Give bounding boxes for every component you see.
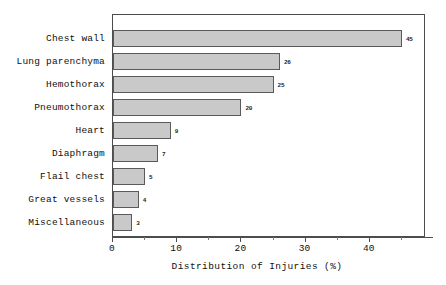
x-tick-label: 0 (109, 243, 115, 254)
bar-value-label: 26 (284, 58, 291, 65)
category-label: Chest wall (46, 33, 105, 44)
bar (113, 76, 274, 93)
category-label: Flail chest (40, 171, 105, 182)
category-label: Diaphragm (52, 148, 105, 159)
bar (113, 99, 241, 116)
bar-chart-figure: 4526252097543 Chest wallLung parenchymaH… (0, 0, 446, 285)
bar-row: 4 (113, 191, 424, 208)
x-tick-label: 40 (363, 243, 375, 254)
x-tick-label: 10 (170, 243, 182, 254)
bar-value-label: 20 (245, 104, 252, 111)
x-tick-minor (273, 237, 274, 240)
bar-value-label: 5 (149, 173, 152, 180)
bar-row: 26 (113, 53, 424, 70)
category-label: Hemothorax (46, 79, 105, 90)
bar (113, 191, 139, 208)
x-tick-minor (337, 237, 338, 240)
bar-row: 3 (113, 214, 424, 231)
x-tick-label: 20 (234, 243, 246, 254)
bar-row: 5 (113, 168, 424, 185)
bar (113, 214, 132, 231)
x-tick-minor (401, 237, 402, 240)
bars-layer: 4526252097543 (113, 15, 424, 236)
x-tick-major (176, 237, 177, 242)
x-axis-title: Distribution of Injuries (%) (0, 261, 446, 272)
category-label: Heart (75, 125, 105, 136)
bar-value-label: 3 (136, 219, 139, 226)
x-tick-major (305, 237, 306, 242)
category-label: Great vessels (28, 194, 105, 205)
category-label: Miscellaneous (28, 217, 105, 228)
category-label: Pneumothorax (34, 102, 105, 113)
bar-value-label: 25 (278, 81, 285, 88)
bar-row: 20 (113, 99, 424, 116)
bar-value-label: 45 (406, 35, 413, 42)
bar-row: 25 (113, 76, 424, 93)
bar-row: 9 (113, 122, 424, 139)
bar-row: 45 (113, 30, 424, 47)
category-label: Lung parenchyma (16, 56, 105, 67)
bar (113, 168, 145, 185)
x-tick-minor (144, 237, 145, 240)
bar (113, 53, 280, 70)
bar-value-label: 7 (162, 150, 165, 157)
bar (113, 122, 171, 139)
x-tick-major (240, 237, 241, 242)
x-tick-minor (208, 237, 209, 240)
bar (113, 30, 402, 47)
bar (113, 145, 158, 162)
x-tick-major (369, 237, 370, 242)
bar-value-label: 4 (143, 196, 146, 203)
x-tick-major (112, 237, 113, 242)
bar-value-label: 9 (175, 127, 178, 134)
bar-row: 7 (113, 145, 424, 162)
x-tick-label: 30 (299, 243, 311, 254)
